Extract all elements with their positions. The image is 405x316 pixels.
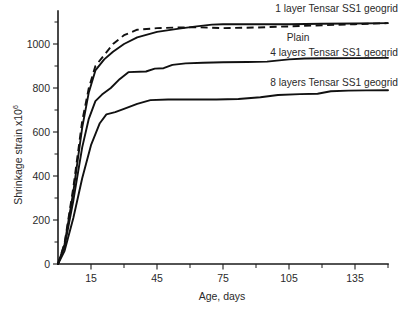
series-line-1 xyxy=(58,23,388,264)
series-line-3 xyxy=(58,90,388,264)
y-axis-title-exponent: 6 xyxy=(12,105,19,109)
series-annotation-2: 4 layers Tensar SS1 geogrid xyxy=(270,47,398,58)
y-tick-label: 600 xyxy=(32,126,50,138)
series-annotation-1: Plain xyxy=(287,32,310,43)
y-axis-title-text: Shrinkage strain x106 xyxy=(12,105,24,205)
x-tick-label: 15 xyxy=(85,272,97,284)
x-tick-label: 105 xyxy=(280,272,298,284)
x-tick-label: 135 xyxy=(346,272,364,284)
y-axis-tick-labels: 02004006008001000 xyxy=(27,38,51,270)
y-axis-title: Shrinkage strain x106 xyxy=(12,105,24,205)
y-tick-label: 200 xyxy=(32,214,50,226)
series-annotation-3: 8 layers Tensar SS1 geogrid xyxy=(270,77,398,88)
series-line-0 xyxy=(58,23,388,264)
y-tick-label: 0 xyxy=(44,258,50,270)
series-line-2 xyxy=(58,58,388,264)
y-axis-title-base: Shrinkage strain x10 xyxy=(12,109,24,205)
y-tick-label: 400 xyxy=(32,170,50,182)
y-tick-label: 800 xyxy=(32,82,50,94)
data-series-group xyxy=(58,23,388,264)
x-axis-title: Age, days xyxy=(199,290,246,302)
series-annotations: 1 layer Tensar SS1 geogridPlain4 layers … xyxy=(270,3,398,88)
shrinkage-strain-chart: 02004006008001000 154575105135 1 layer T… xyxy=(0,0,405,316)
y-tick-label: 1000 xyxy=(27,38,51,50)
x-axis-ticks xyxy=(91,264,388,270)
x-axis-tick-labels: 154575105135 xyxy=(85,272,364,284)
x-tick-label: 75 xyxy=(217,272,229,284)
series-annotation-0: 1 layer Tensar SS1 geogrid xyxy=(275,3,398,14)
x-tick-label: 45 xyxy=(151,272,163,284)
chart-plot-area: 02004006008001000 154575105135 1 layer T… xyxy=(0,0,405,316)
